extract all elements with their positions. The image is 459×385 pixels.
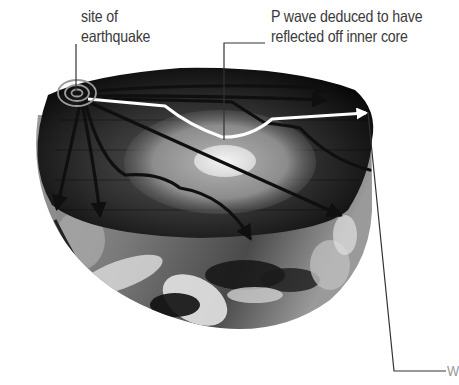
label-line: earthquake bbox=[81, 26, 150, 46]
leader-line-right bbox=[368, 112, 446, 371]
label-line: reflected off inner core bbox=[271, 26, 422, 46]
label-right-edge-truncated: W bbox=[447, 361, 459, 381]
label-line: P wave deduced to have bbox=[271, 6, 422, 26]
label-line: site of bbox=[81, 6, 150, 26]
label-earthquake-site: site of earthquake bbox=[81, 6, 150, 46]
label-reflected-p-wave: P wave deduced to have reflected off inn… bbox=[271, 6, 422, 46]
